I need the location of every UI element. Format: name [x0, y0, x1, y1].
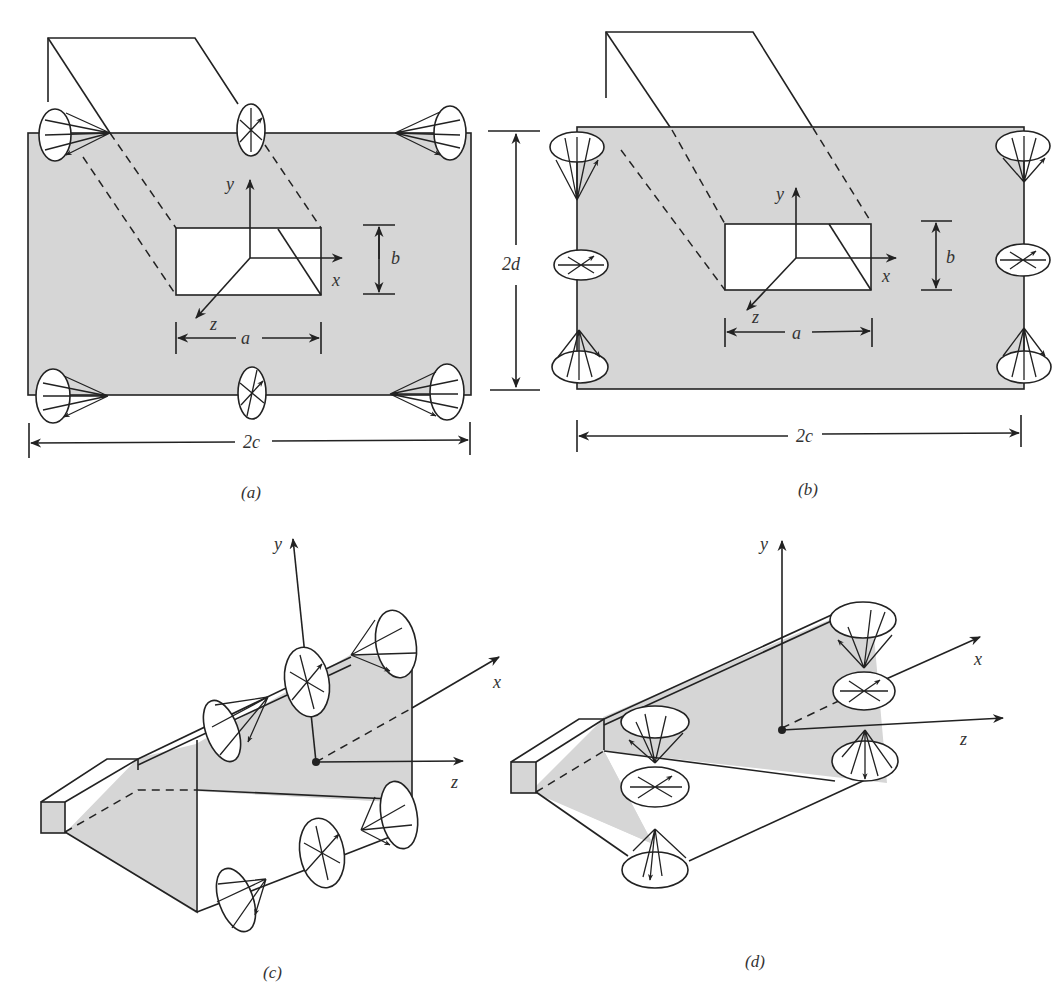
caption-c: (c) — [263, 963, 282, 982]
z-label-c: z — [450, 772, 458, 792]
dim-a-right-b — [812, 331, 870, 332]
z-label-b: z — [751, 307, 759, 327]
waveguide-stub-d — [511, 762, 536, 793]
disc-source-d-left-middle — [621, 767, 689, 807]
dim-2c-label-b: 2c — [796, 426, 813, 446]
z-label-a: z — [209, 314, 217, 334]
waveguide-edge-b — [606, 32, 672, 130]
panel-c: y x z (c) — [41, 534, 501, 982]
dim-2c-right-a — [272, 440, 468, 441]
disc-source-b-left-middle — [554, 250, 608, 280]
x-label-a: x — [331, 270, 340, 290]
waveguide-outline-b — [606, 32, 813, 128]
disc-source-d-right-middle — [833, 672, 895, 710]
waveguide-outline-a — [48, 38, 238, 104]
figure-canvas: y x z a b 2d 2c — [0, 0, 1057, 998]
dim-2d-label: 2d — [502, 254, 521, 274]
caption-a: (a) — [241, 483, 261, 502]
panel-d: y x z (d) — [511, 534, 1003, 971]
dim-2c-label-a: 2c — [243, 432, 260, 452]
y-label-d: y — [758, 534, 768, 554]
x-label-c: x — [492, 672, 501, 692]
y-label-a: y — [224, 174, 234, 194]
dim-2c-left-a — [31, 442, 235, 443]
disc-source-a-top-center — [237, 104, 265, 156]
waveguide-stub-c — [41, 802, 65, 833]
panel-a: y x z a b 2d 2c — [28, 38, 540, 502]
x-label-b: x — [881, 266, 890, 286]
cone-source-c-lower-left — [209, 863, 266, 937]
x-axis-c — [412, 657, 499, 708]
x-label-d: x — [973, 649, 982, 669]
caption-d: (d) — [745, 952, 765, 971]
caption-b: (b) — [798, 480, 818, 499]
dim-b-label-b: b — [946, 247, 955, 267]
z-label-d: z — [959, 729, 967, 749]
dim-a-label-b: a — [792, 323, 801, 343]
y-label-c: y — [272, 534, 282, 554]
disc-source-b-right-middle — [996, 244, 1050, 276]
dim-b-label: b — [391, 248, 400, 268]
dim-2c-right-b — [822, 433, 1019, 434]
panel-b: y x z a b 2c — [550, 32, 1051, 499]
z-axis-c — [316, 761, 463, 762]
disc-source-a-bottom-center — [238, 367, 266, 419]
y-label-b: y — [774, 184, 784, 204]
cone-source-d-left-lower — [622, 829, 688, 888]
lower-edge-d — [689, 780, 865, 861]
dim-a-label: a — [241, 328, 250, 348]
disc-source-c-lower-middle — [294, 815, 349, 892]
